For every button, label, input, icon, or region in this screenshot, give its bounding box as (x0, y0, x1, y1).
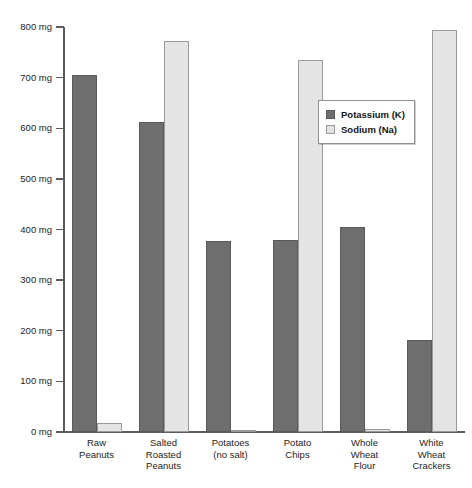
bar-potassium[interactable] (340, 227, 365, 432)
y-tick-label: 500 mg (0, 174, 52, 184)
bar-potassium[interactable] (273, 240, 298, 432)
plot-area (63, 27, 465, 432)
bar-sodium[interactable] (432, 30, 457, 432)
legend-label-sodium: Sodium (Na) (341, 124, 397, 135)
y-tick-label: 0 mg (0, 427, 52, 437)
y-tick-label: 700 mg (0, 73, 52, 83)
legend: Potassium (K) Sodium (Na) (318, 100, 415, 144)
y-tick-label: 100 mg (0, 376, 52, 386)
bar-chart: Potassium and Sodium Content of Selected… (0, 0, 472, 488)
bar-sodium[interactable] (97, 423, 122, 432)
legend-label-potassium: Potassium (K) (341, 109, 405, 120)
x-axis-label: WhiteWheatCrackers (392, 437, 471, 472)
bar-sodium[interactable] (231, 430, 256, 432)
y-tick-label: 400 mg (0, 225, 52, 235)
bar-potassium[interactable] (72, 75, 97, 432)
bar-sodium[interactable] (164, 41, 189, 432)
bar-potassium[interactable] (407, 340, 432, 432)
chart-title: Potassium and Sodium Content of Selected… (0, 0, 472, 3)
bar-potassium[interactable] (206, 241, 231, 432)
legend-swatch-sodium-icon (326, 125, 335, 134)
bar-sodium[interactable] (365, 429, 390, 432)
legend-item-potassium[interactable]: Potassium (K) (326, 107, 405, 122)
y-tick-label: 300 mg (0, 275, 52, 285)
legend-swatch-potassium-icon (326, 110, 335, 119)
y-tick-label: 600 mg (0, 123, 52, 133)
bar-potassium[interactable] (139, 122, 164, 432)
y-tick-label: 200 mg (0, 326, 52, 336)
legend-item-sodium[interactable]: Sodium (Na) (326, 122, 405, 137)
y-tick-label: 800 mg (0, 22, 52, 32)
